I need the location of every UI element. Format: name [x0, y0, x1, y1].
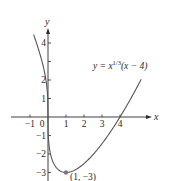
x-tick-label: 1 [64, 119, 69, 129]
y-tick-label: −1 [36, 131, 46, 141]
x-tick-label: −1 [25, 119, 35, 129]
axes [11, 28, 152, 181]
minimum-point-label: (1, −3) [70, 172, 96, 181]
x-tick-label: 3 [100, 119, 105, 129]
y-tick-label: 4 [41, 38, 46, 48]
x-axis-arrowhead [146, 115, 152, 119]
y-axis-label: y [44, 16, 50, 27]
x-tick-labels: −101234 [25, 119, 123, 129]
x-tick-label: 2 [82, 119, 87, 129]
function-label: y = x1/3(x − 4) [92, 59, 147, 72]
minimum-point-marker [64, 170, 68, 174]
function-label-exponent: 1/3 [113, 59, 121, 66]
function-plot: x y −101234 −3−2−1124 y = x1/3(x − 4) (1… [0, 0, 171, 181]
y-tick-label: −3 [36, 168, 46, 178]
y-tick-label: 2 [41, 75, 46, 85]
x-axis-label: x [153, 111, 159, 122]
y-tick-label: −2 [36, 149, 46, 159]
y-tick-label: 1 [41, 94, 46, 104]
y-axis-arrowhead [46, 28, 50, 34]
function-curve [34, 35, 142, 173]
function-label-suffix: (x − 4) [121, 61, 147, 72]
x-tick-label: 4 [118, 119, 123, 129]
x-tick-label: 0 [40, 119, 45, 129]
function-label-prefix: y = x [92, 61, 113, 71]
